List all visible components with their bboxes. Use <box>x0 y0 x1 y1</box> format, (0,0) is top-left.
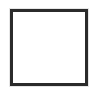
square-outline[interactable] <box>10 9 88 86</box>
canvas <box>0 0 95 94</box>
square-interior <box>13 12 85 83</box>
